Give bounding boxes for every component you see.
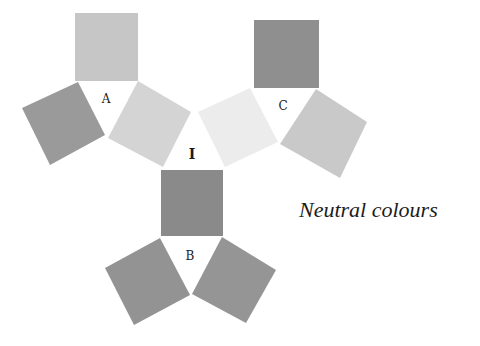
- swatch-a-top: [75, 13, 138, 81]
- swatch-a-left: [22, 82, 105, 165]
- swatch-a-right: [108, 81, 191, 167]
- swatch-b-left: [105, 238, 190, 325]
- swatch-center: [161, 170, 223, 236]
- label-i: I: [189, 146, 196, 162]
- swatch-c-right: [280, 89, 367, 178]
- swatch-c-top: [254, 20, 319, 88]
- swatch-b-right: [192, 237, 276, 323]
- label-a: A: [101, 92, 111, 106]
- caption: Neutral colours: [299, 197, 438, 223]
- label-c: C: [278, 99, 287, 113]
- swatch-i-light: [198, 88, 278, 167]
- label-b: B: [186, 249, 195, 263]
- neutral-colours-diagram: A I C B: [0, 0, 480, 346]
